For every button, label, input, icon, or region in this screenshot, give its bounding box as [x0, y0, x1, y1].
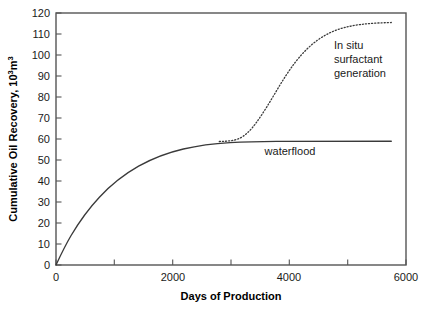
x-axis-title: Days of Production: [181, 290, 282, 302]
y-axis-title: Cumulative Oil Recovery, 103m3: [6, 56, 19, 221]
x-axis-tick-labels: 0 2000 4000 6000: [53, 271, 418, 283]
x-tick-label: 4000: [277, 271, 301, 283]
y-axis-title-main: Cumulative Oil Recovery, 10: [7, 74, 19, 221]
y-axis-title-sup2: 3: [6, 56, 15, 60]
x-tick-label: 2000: [161, 271, 185, 283]
y-tick-label: 120: [32, 7, 50, 19]
in-situ-annotation-line-2: surfactant: [334, 53, 382, 65]
y-tick-label: 40: [38, 175, 50, 187]
x-axis-ticks: [56, 260, 406, 266]
y-tick-label: 10: [38, 238, 50, 250]
y-tick-label: 30: [38, 196, 50, 208]
y-axis-tick-labels: 0 10 20 30 40 50 60 70 80 90 100 110 120: [32, 7, 50, 271]
in-situ-annotation: In situ surfactant generation: [334, 39, 386, 79]
y-tick-label: 110: [32, 28, 50, 40]
in-situ-annotation-line-1: In situ: [334, 39, 363, 51]
oil-recovery-line-chart: 0 10 20 30 40 50 60 70 80 90 100 110 120: [0, 0, 429, 309]
x-tick-label: 0: [53, 271, 59, 283]
svg-text:Cumulative Oil Recovery, 103m3: Cumulative Oil Recovery, 103m3: [6, 56, 19, 221]
y-axis-ticks: [56, 13, 62, 265]
x-tick-label: 6000: [394, 271, 418, 283]
y-tick-label: 100: [32, 49, 50, 61]
waterflood-annotation: waterflood: [264, 145, 316, 157]
y-tick-label: 90: [38, 70, 50, 82]
y-tick-label: 70: [38, 112, 50, 124]
y-tick-label: 50: [38, 154, 50, 166]
chart-figure: 0 10 20 30 40 50 60 70 80 90 100 110 120: [0, 0, 429, 309]
y-axis-title-tail: m: [7, 60, 19, 70]
y-tick-label: 60: [38, 133, 50, 145]
in-situ-annotation-line-3: generation: [334, 67, 386, 79]
waterflood-curve: [56, 141, 391, 265]
y-tick-label: 0: [44, 259, 50, 271]
y-tick-label: 80: [38, 91, 50, 103]
y-tick-label: 20: [38, 217, 50, 229]
in-situ-surfactant-curve: [219, 23, 391, 142]
